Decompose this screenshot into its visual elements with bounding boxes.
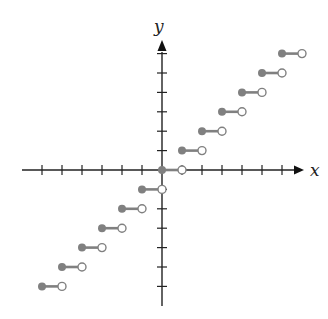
- step-segment: [158, 166, 186, 174]
- open-dot-icon: [158, 185, 166, 193]
- closed-dot-icon: [78, 244, 86, 252]
- step-segment: [118, 205, 146, 213]
- open-dot-icon: [58, 282, 66, 290]
- closed-dot-icon: [58, 263, 66, 271]
- step-segment: [98, 224, 126, 232]
- step-segment: [218, 108, 246, 116]
- step-function-graph: x y: [0, 0, 328, 319]
- step-segment: [38, 282, 66, 290]
- closed-dot-icon: [178, 147, 186, 155]
- x-axis-label: x: [310, 160, 320, 180]
- open-dot-icon: [78, 263, 86, 271]
- x-axis-arrow-icon: [294, 166, 304, 175]
- closed-dot-icon: [198, 127, 206, 135]
- step-segment: [258, 69, 286, 77]
- step-segment: [138, 185, 166, 193]
- step-segment: [58, 263, 86, 271]
- closed-dot-icon: [258, 69, 266, 77]
- y-axis-arrow-icon: [158, 40, 167, 51]
- closed-dot-icon: [98, 224, 106, 232]
- open-dot-icon: [298, 50, 306, 58]
- step-segment: [178, 147, 206, 155]
- step-segment: [238, 88, 266, 96]
- closed-dot-icon: [278, 50, 286, 58]
- open-dot-icon: [178, 166, 186, 174]
- open-dot-icon: [238, 108, 246, 116]
- step-segment: [78, 244, 106, 252]
- open-dot-icon: [218, 127, 226, 135]
- open-dot-icon: [118, 224, 126, 232]
- step-segment: [278, 50, 306, 58]
- closed-dot-icon: [138, 185, 146, 193]
- open-dot-icon: [138, 205, 146, 213]
- closed-dot-icon: [218, 108, 226, 116]
- open-dot-icon: [278, 69, 286, 77]
- closed-dot-icon: [158, 166, 166, 174]
- closed-dot-icon: [118, 205, 126, 213]
- y-axis-label: y: [153, 16, 164, 36]
- open-dot-icon: [198, 147, 206, 155]
- open-dot-icon: [98, 244, 106, 252]
- step-segment: [198, 127, 226, 135]
- open-dot-icon: [258, 88, 266, 96]
- closed-dot-icon: [38, 282, 46, 290]
- closed-dot-icon: [238, 88, 246, 96]
